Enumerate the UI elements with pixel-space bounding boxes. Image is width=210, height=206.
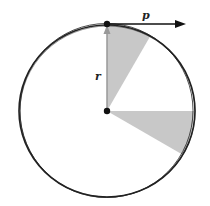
center-point <box>104 108 110 114</box>
orbit-diagram: r p <box>0 0 210 206</box>
label-p: p <box>142 9 150 22</box>
particle-point <box>104 21 110 27</box>
swept-sector-lower <box>107 111 194 155</box>
label-r: r <box>95 70 102 83</box>
swept-sector-upper <box>107 24 151 111</box>
